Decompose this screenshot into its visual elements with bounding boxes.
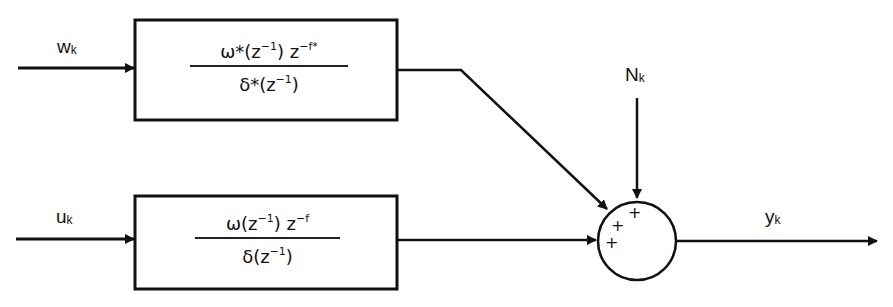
top-denominator: δ*(z−1) [190,69,348,96]
plus-sign-bottom-input: + [605,235,618,251]
u-input-label: uk [56,206,73,228]
top-block-output-line [397,70,607,209]
y-output-label: yk [765,206,781,228]
bottom-numerator: ω(z−1) z−f [195,208,340,235]
bottom-transfer-function: ω(z−1) z−f δ(z−1) [195,208,340,268]
noise-input-label: Nk [625,64,645,86]
w-input-label: wk [57,36,77,58]
top-fraction-bar [190,65,348,67]
plus-sign-noise: + [628,205,641,221]
plus-sign-top-input: + [611,218,624,234]
bottom-denominator: δ(z−1) [195,241,340,268]
block-diagram-canvas [0,0,893,307]
top-numerator: ω*(z−1) z−f* [190,36,348,63]
top-transfer-function: ω*(z−1) z−f* δ*(z−1) [190,36,348,96]
bottom-fraction-bar [195,237,340,239]
truncated-caption [20,300,440,307]
